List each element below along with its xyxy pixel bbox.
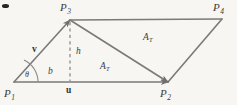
base-length-label: b [48, 67, 53, 77]
area-label-lower-triangle: AT [100, 62, 109, 72]
vector-v-arrow [14, 20, 70, 82]
edge-p3-p4 [70, 19, 222, 20]
vertex-label-p4: P4 [213, 2, 224, 13]
vertex-label-p2: P2 [160, 88, 171, 99]
edge-p2-p4 [168, 19, 222, 82]
angle-theta-label: θ [25, 71, 29, 79]
parallelogram-outline [70, 19, 222, 82]
vertex-label-p1: P1 [4, 88, 15, 99]
parallelogram-area-figure: P3 P4 P1 P2 v u b h θ AT AT [0, 0, 237, 105]
vector-u-label: u [66, 86, 71, 96]
vector-v-label: v [32, 45, 37, 55]
diagonal-p3-p2-arrow [70, 20, 168, 82]
area-label-upper-triangle: AT [143, 33, 152, 43]
height-label: h [76, 47, 81, 57]
vertex-label-p3: P3 [60, 2, 71, 13]
